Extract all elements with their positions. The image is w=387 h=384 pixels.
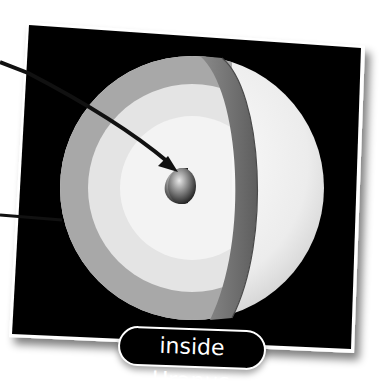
uranus-diagram (0, 0, 387, 384)
diagram-title-label: inside Uranus (117, 325, 266, 370)
